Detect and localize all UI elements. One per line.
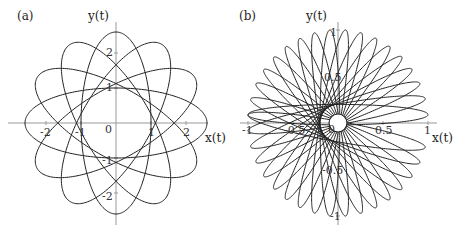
panel-label-a: (a)	[17, 10, 34, 22]
panel-label-b: (b)	[239, 10, 256, 22]
x-tick-b: 0	[328, 124, 335, 135]
y-tick-a: -1	[102, 155, 113, 166]
plot-panel-b: (b) y(t) x(t) -1 -0.5 0 0.5 1 1 0.5 -0.5…	[232, 0, 465, 232]
y-tick-a: -2	[102, 191, 113, 202]
x-tick-a: 0	[105, 124, 112, 135]
x-tick-a: -1	[75, 127, 86, 138]
y-tick-b: 1	[330, 27, 337, 38]
y-axis-label-b: y(t)	[306, 10, 327, 22]
x-tick-a: -2	[40, 127, 51, 138]
plot-panel-a: (a) y(t) x(t) -2 -1 0 1 2 2 1 -1 -2	[0, 0, 232, 232]
x-tick-b: 1	[424, 125, 431, 136]
x-tick-b: -0.5	[284, 125, 305, 136]
x-tick-a: 1	[148, 127, 155, 138]
plot-a-canvas	[0, 0, 232, 232]
x-tick-b: 0.5	[375, 125, 393, 136]
y-tick-a: 1	[106, 82, 113, 93]
x-axis-label-a: x(t)	[205, 132, 226, 144]
y-axis-label-a: y(t)	[88, 10, 109, 22]
x-tick-b: -1	[242, 125, 253, 136]
y-tick-b: 0.5	[324, 72, 342, 83]
plot-b-canvas	[232, 0, 465, 232]
y-tick-b: -0.5	[322, 165, 343, 176]
x-tick-a: 2	[183, 127, 190, 138]
x-axis-label-b: x(t)	[432, 132, 453, 144]
y-tick-a: 2	[106, 47, 113, 58]
y-tick-b: -1	[330, 211, 341, 222]
